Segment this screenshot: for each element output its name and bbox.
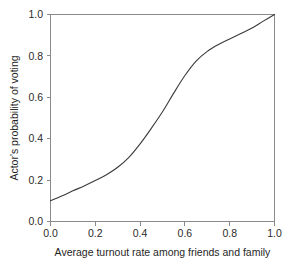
x-tick-label: 0.2	[88, 227, 103, 239]
chart-figure: 0.0 0.2 0.4 0.6 0.8 1.0 0.0 0.2 0.4 0.6 …	[0, 0, 294, 270]
y-tick-label: 0.4	[28, 132, 43, 144]
y-tick-label: 0.2	[28, 174, 43, 186]
x-axis-title: Average turnout rate among friends and f…	[55, 246, 272, 258]
x-tick-label: 0.0	[43, 227, 58, 239]
x-tick-label: 1.0	[267, 227, 282, 239]
x-tick-label: 0.6	[178, 227, 193, 239]
y-axis-title: Actor's probability of voting	[8, 55, 20, 180]
y-tick-label: 1.0	[28, 8, 43, 20]
y-tick-label: 0.6	[28, 91, 43, 103]
y-tick-label: 0.8	[28, 50, 43, 62]
x-tick-label: 0.4	[133, 227, 148, 239]
x-tick-label: 0.8	[222, 227, 237, 239]
y-tick-label: 0.0	[28, 215, 43, 227]
sigmoid-line-chart: 0.0 0.2 0.4 0.6 0.8 1.0 0.0 0.2 0.4 0.6 …	[0, 0, 294, 270]
